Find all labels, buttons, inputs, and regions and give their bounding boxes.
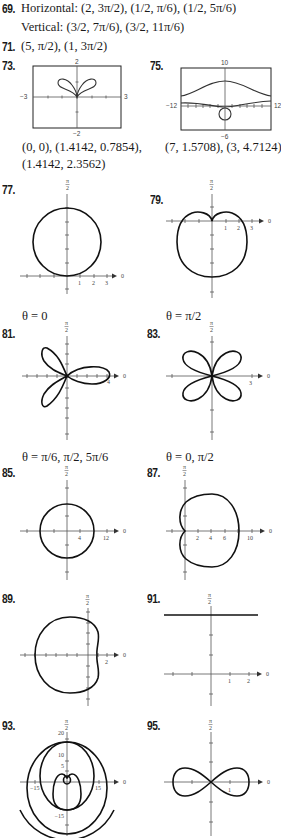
answer-number-69: 69. (2, 2, 15, 16)
answer-73-caption-1: (0, 0), (1.4142, 0.7854), (22, 140, 142, 155)
svg-text:3: 3 (249, 380, 252, 386)
graph-91: π2 0 1 2 (140, 590, 281, 710)
svg-text:π: π (210, 320, 213, 326)
svg-text:π: π (208, 592, 211, 598)
svg-text:2: 2 (247, 678, 250, 684)
answer-73-caption-2: (1.4142, 2.3562) (22, 157, 105, 172)
horizontal-point-3: (1/2, 5π/6) (183, 1, 236, 15)
svg-text:2: 2 (237, 225, 240, 231)
svg-text:1: 1 (224, 225, 227, 231)
svg-text:6: 6 (223, 535, 226, 541)
svg-text:π: π (66, 178, 69, 184)
svg-text:3: 3 (250, 225, 253, 231)
graph-89: π2 0 2 (0, 590, 140, 710)
svg-text:π: π (86, 593, 89, 599)
answer-number-71: 71. (2, 40, 15, 54)
svg-text:0: 0 (266, 671, 269, 677)
svg-text:1: 1 (228, 678, 231, 684)
svg-text:0: 0 (123, 528, 126, 534)
ymax-label: 2 (75, 58, 79, 65)
graph-79: π2 0 1 2 3 (140, 176, 281, 306)
svg-text:4: 4 (78, 535, 81, 541)
svg-text:−15: −15 (30, 785, 39, 791)
svg-text:0: 0 (268, 218, 271, 224)
svg-text:2: 2 (210, 327, 213, 333)
graph-81: π2 0 4 (0, 318, 140, 448)
svg-text:0: 0 (123, 652, 126, 658)
svg-text:3: 3 (105, 280, 108, 286)
svg-text:2: 2 (105, 659, 108, 665)
svg-text:0: 0 (267, 779, 270, 785)
svg-text:2: 2 (65, 725, 68, 731)
xmax-label: 12 (274, 102, 281, 109)
svg-text:4: 4 (107, 379, 110, 385)
graph-83: π2 0 3 (140, 318, 281, 448)
svg-text:2: 2 (208, 599, 211, 605)
svg-text:10: 10 (58, 752, 64, 758)
svg-text:20: 20 (58, 730, 64, 736)
svg-text:π: π (65, 718, 68, 724)
svg-text:10: 10 (247, 535, 253, 541)
vertical-point-1: (3/2, 7π/6) (66, 20, 119, 34)
svg-text:−15: −15 (55, 813, 64, 819)
svg-text:15: 15 (95, 785, 101, 791)
horizontal-label: Horizontal: (21, 1, 78, 15)
svg-text:0: 0 (123, 779, 126, 785)
svg-text:π: π (65, 320, 68, 326)
svg-text:π: π (209, 718, 212, 724)
svg-text:2: 2 (196, 535, 199, 541)
graph-87: π2 0 2 4 6 10 (140, 462, 281, 582)
graph-77: π2 0 1 2 3 (0, 176, 140, 306)
svg-text:12: 12 (103, 535, 109, 541)
svg-text:0: 0 (121, 273, 124, 279)
svg-text:1: 1 (78, 280, 81, 286)
answer-71-text: (5, π/2), (1, 3π/2) (21, 39, 107, 54)
svg-text:1: 1 (228, 787, 231, 793)
svg-text:2: 2 (210, 185, 213, 191)
svg-text:2: 2 (92, 280, 95, 286)
svg-text:π: π (210, 178, 213, 184)
svg-text:π: π (65, 464, 68, 470)
svg-text:2: 2 (86, 600, 89, 606)
svg-text:0: 0 (269, 528, 272, 534)
svg-text:2: 2 (65, 471, 68, 477)
xmin-label: −12 (166, 102, 177, 109)
svg-text:2: 2 (183, 471, 186, 477)
answer-69-horizontal: Horizontal: (2, 3π/2), (1/2, π/6), (1/2,… (21, 1, 236, 16)
svg-text:π: π (183, 464, 186, 470)
graph-85: π2 0 4 12 (0, 462, 140, 582)
xmin-label: −3 (20, 93, 28, 100)
vertical-point-2: (3/2, 11π/6) (126, 20, 185, 34)
answer-69-vertical: Vertical: (3/2, 7π/6), (3/2, 11π/6) (21, 20, 184, 35)
svg-text:0: 0 (123, 373, 126, 379)
ymin-label: −6 (221, 133, 229, 140)
svg-text:2: 2 (66, 185, 69, 191)
horizontal-point-1: (2, 3π/2) (81, 1, 124, 15)
graph-93: π2 0 20 10 5 −15 −15 15 (0, 716, 140, 838)
horizontal-point-2: (1/2, π/6) (130, 1, 177, 15)
graph-75: 10 −12 12 −6 (140, 58, 281, 142)
svg-text:2: 2 (209, 725, 212, 731)
ymin-label: −2 (73, 130, 81, 137)
vertical-label: Vertical: (21, 20, 63, 34)
svg-text:4: 4 (209, 535, 212, 541)
svg-text:2: 2 (65, 327, 68, 333)
graph-95: π2 0 1 (140, 716, 281, 838)
ymax-label: 10 (221, 59, 229, 66)
xmax-label: 3 (124, 93, 128, 100)
svg-text:0: 0 (267, 373, 270, 379)
answer-75-caption: (7, 1.5708), (3, 4.7124) (165, 140, 281, 155)
svg-text:5: 5 (61, 763, 64, 769)
graph-73: 2 −3 3 −2 (0, 58, 140, 142)
